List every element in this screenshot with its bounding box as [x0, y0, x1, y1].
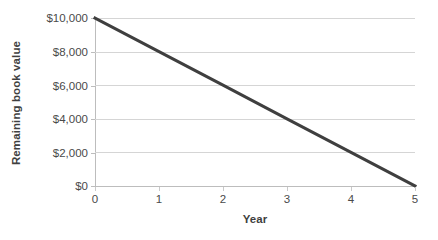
y-tick-label: $8,000 — [26, 46, 88, 58]
x-tick-mark — [351, 187, 352, 191]
plot-area — [95, 18, 415, 186]
x-tick-label: 2 — [203, 193, 243, 205]
x-tick-mark — [159, 187, 160, 191]
y-tick-label: $4,000 — [26, 113, 88, 125]
x-tick-label: 4 — [331, 193, 371, 205]
x-tick-label: 0 — [75, 193, 115, 205]
x-tick-mark — [415, 187, 416, 191]
x-axis-line — [95, 186, 415, 187]
y-axis-title-label: Remaining book value — [10, 40, 22, 164]
y-tick-label: $6,000 — [26, 80, 88, 92]
x-tick-mark — [287, 187, 288, 191]
x-tick-label: 1 — [139, 193, 179, 205]
x-tick-mark — [223, 187, 224, 191]
x-tick-label: 5 — [395, 193, 435, 205]
x-tick-mark — [95, 187, 96, 191]
chart-container: Remaining book value $10,000 $8,000 $6,0… — [0, 0, 438, 240]
series-polyline-remaining-book-value — [95, 18, 415, 186]
data-series-line — [95, 18, 415, 186]
y-tick-label: $10,000 — [26, 12, 88, 24]
x-tick-label: 3 — [267, 193, 307, 205]
y-tick-label: $0 — [26, 180, 88, 192]
x-axis-title: Year — [95, 213, 415, 225]
y-tick-label: $2,000 — [26, 147, 88, 159]
